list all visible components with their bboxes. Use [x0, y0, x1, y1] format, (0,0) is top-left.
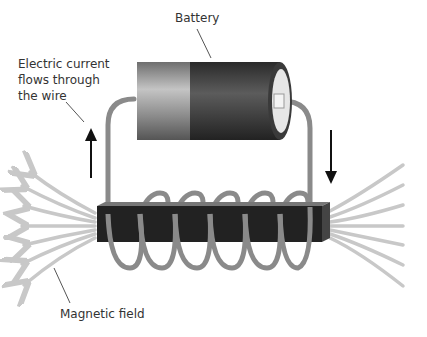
- battery-leader: [197, 29, 211, 58]
- arrow-down-icon: [325, 130, 337, 184]
- magnetic-field-left: [22, 172, 95, 285]
- magnetic-field-label: Magnetic field: [60, 306, 145, 322]
- battery-icon: [137, 62, 292, 140]
- current-leader: [66, 102, 84, 122]
- current-label: Electric current flows through the wire: [18, 56, 110, 104]
- magnetic-field-right: [330, 165, 403, 286]
- arrow-up-icon: [85, 128, 97, 178]
- battery-label: Battery: [175, 10, 219, 26]
- electromagnet-diagram: [0, 0, 427, 337]
- field-leader: [54, 268, 70, 303]
